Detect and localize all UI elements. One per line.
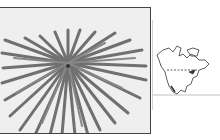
plant-photo xyxy=(0,7,151,134)
plant-rosette-icon xyxy=(0,8,151,134)
range-map xyxy=(152,20,220,110)
north-america-map-icon xyxy=(153,20,220,110)
